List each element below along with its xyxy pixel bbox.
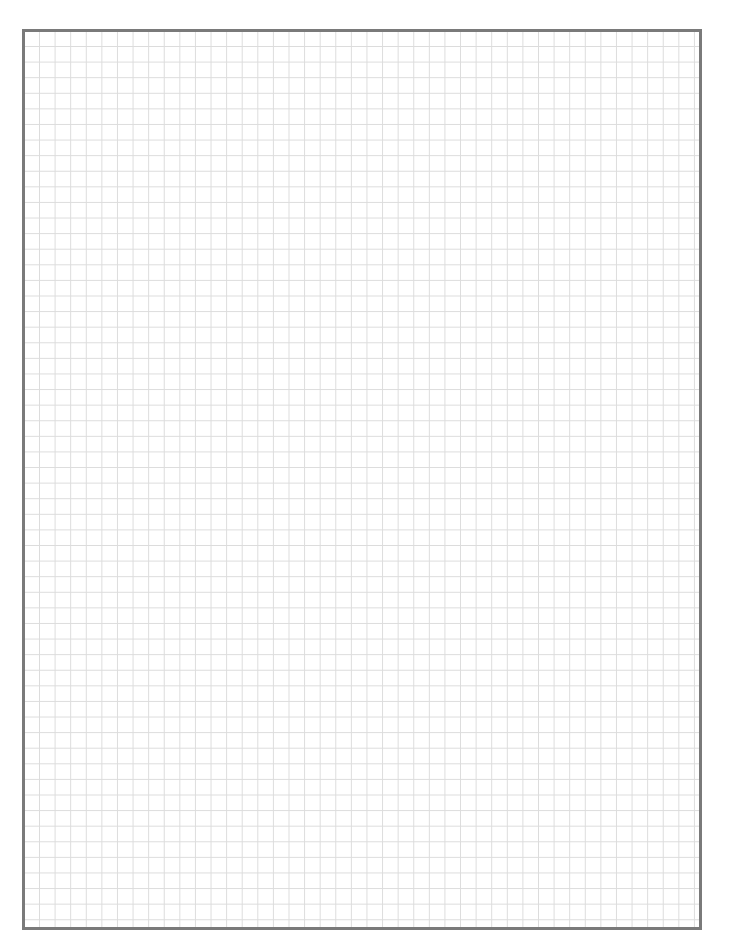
graph-paper-grid <box>22 29 702 930</box>
